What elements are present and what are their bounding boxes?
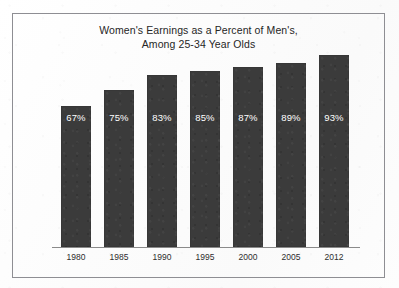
bar-2012 xyxy=(319,55,349,247)
plot-area: 67%198075%198583%199085%199587%200089%20… xyxy=(0,0,399,288)
x-tick-label-2000: 2000 xyxy=(227,252,269,263)
bar-value-label-2005: 89% xyxy=(276,112,306,123)
bar-value-label-2000: 87% xyxy=(233,112,263,123)
x-tick-label-1995: 1995 xyxy=(184,252,226,263)
x-tick-label-2005: 2005 xyxy=(270,252,312,263)
x-tick-label-1985: 1985 xyxy=(98,252,140,263)
x-tick-label-1980: 1980 xyxy=(55,252,97,263)
bar-texture xyxy=(190,71,220,247)
bar-value-label-2012: 93% xyxy=(319,112,349,123)
bar-1990 xyxy=(147,75,177,247)
bar-texture xyxy=(147,75,177,247)
x-tick-label-2012: 2012 xyxy=(313,252,355,263)
bar-value-label-1980: 67% xyxy=(61,112,91,123)
bar-value-label-1995: 85% xyxy=(190,112,220,123)
bar-1980 xyxy=(61,106,91,247)
x-tick-label-1990: 1990 xyxy=(141,252,183,263)
chart-figure: Women's Earnings as a Percent of Men's, … xyxy=(0,0,399,288)
bar-texture xyxy=(233,67,263,247)
bar-2000 xyxy=(233,67,263,247)
bar-texture xyxy=(276,63,306,247)
bar-2005 xyxy=(276,63,306,247)
x-axis-line xyxy=(52,247,360,248)
bar-value-label-1985: 75% xyxy=(104,112,134,123)
bar-texture xyxy=(61,106,91,247)
bar-value-label-1990: 83% xyxy=(147,112,177,123)
bar-texture xyxy=(319,55,349,247)
bar-1995 xyxy=(190,71,220,247)
